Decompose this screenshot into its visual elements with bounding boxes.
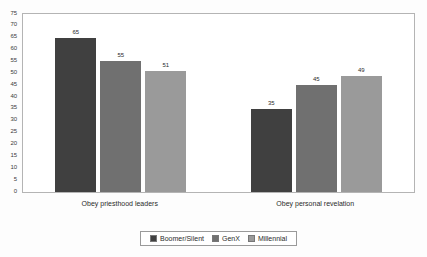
legend-label: GenX: [222, 235, 240, 243]
legend-swatch-icon: [212, 235, 219, 242]
chart-legend: Boomer/SilentGenXMillennial: [140, 231, 297, 246]
legend-item[interactable]: Millennial: [248, 235, 287, 243]
y-axis-tick-label: 10: [0, 164, 17, 171]
bar: [251, 109, 292, 192]
legend-item[interactable]: GenX: [212, 235, 240, 243]
y-axis: 051015202530354045505560657075: [0, 7, 20, 197]
y-axis-tick-label: 25: [0, 128, 17, 135]
bar-value-label: 45: [296, 76, 337, 83]
bar-value-label: 51: [145, 62, 186, 69]
bar: [145, 71, 186, 192]
y-axis-tick-label: 70: [0, 21, 17, 28]
legend-item[interactable]: Boomer/Silent: [150, 235, 204, 243]
y-axis-tick-label: 60: [0, 45, 17, 52]
bar: [100, 61, 141, 192]
bars-layer: 655551354549: [23, 14, 414, 192]
y-axis-tick-label: 5: [0, 176, 17, 183]
y-axis-tick-label: 0: [0, 188, 17, 195]
y-axis-tick-label: 55: [0, 57, 17, 64]
y-axis-tick-label: 65: [0, 33, 17, 40]
legend-swatch-icon: [150, 235, 157, 242]
plot-area: 655551354549: [22, 13, 415, 193]
legend-label: Boomer/Silent: [160, 235, 204, 243]
x-axis-category-label: Obey priesthood leaders: [22, 199, 218, 208]
y-axis-tick-label: 45: [0, 81, 17, 88]
bar-chart: 051015202530354045505560657075 655551354…: [0, 0, 427, 257]
bar: [296, 85, 337, 192]
y-axis-tick-label: 20: [0, 140, 17, 147]
y-axis-tick-label: 50: [0, 69, 17, 76]
y-axis-tick-label: 40: [0, 93, 17, 100]
bar-value-label: 35: [251, 100, 292, 107]
y-axis-tick-label: 35: [0, 104, 17, 111]
bar-value-label: 65: [55, 29, 96, 36]
y-axis-tick-label: 30: [0, 116, 17, 123]
x-axis-category-label: Obey personal revelation: [218, 199, 414, 208]
legend-swatch-icon: [248, 235, 255, 242]
legend-label: Millennial: [258, 235, 287, 243]
bar-value-label: 55: [100, 52, 141, 59]
bar: [55, 38, 96, 192]
bar: [341, 76, 382, 192]
y-axis-tick-label: 75: [0, 10, 17, 17]
bar-value-label: 49: [341, 67, 382, 74]
y-axis-tick-label: 15: [0, 152, 17, 159]
